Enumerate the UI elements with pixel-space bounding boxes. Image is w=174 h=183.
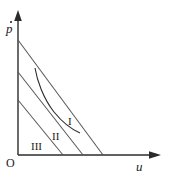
- region-label-ii: II: [52, 131, 59, 142]
- p-dot-accent-icon: [10, 21, 12, 23]
- region-label-i: I: [68, 116, 72, 127]
- region-label-iii: III: [31, 141, 42, 152]
- x-axis-arrowhead: [149, 151, 161, 159]
- boundary-line-outer: [18, 40, 103, 155]
- plot-canvas: [0, 0, 174, 183]
- x-axis-label: u: [136, 160, 143, 173]
- y-axis-arrowhead: [14, 10, 22, 21]
- y-axis-label: p: [6, 22, 13, 35]
- origin-label: O: [6, 157, 15, 169]
- figure-container: p u O I II III: [0, 0, 174, 183]
